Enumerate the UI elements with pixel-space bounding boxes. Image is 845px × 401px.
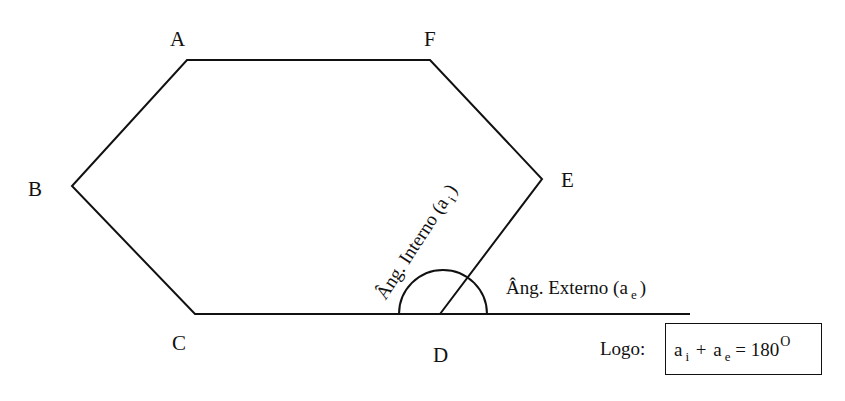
angle-arc xyxy=(399,270,487,314)
degree-symbol: O xyxy=(780,334,790,349)
formula-equals: = 180 xyxy=(735,339,779,360)
vertex-label-a: A xyxy=(170,29,185,50)
vertex-label-d: D xyxy=(433,345,448,366)
external-angle-label: Âng. Externo (ae) xyxy=(506,278,646,297)
formula-term1-subscript: i xyxy=(685,349,689,364)
external-angle-close: ) xyxy=(640,277,646,298)
formula-box: ai + ae = 180O xyxy=(665,323,822,375)
formula: ai + ae = 180O xyxy=(674,339,790,361)
vertex-label-b: B xyxy=(28,179,42,200)
formula-term1: a xyxy=(674,339,682,360)
formula-term2-subscript: e xyxy=(725,349,731,364)
conclusion-prefix: Logo: xyxy=(600,339,645,358)
hexagon-outline xyxy=(72,60,542,314)
vertex-label-e: E xyxy=(561,170,574,191)
formula-term2: a xyxy=(713,339,721,360)
formula-plus: + xyxy=(696,339,707,360)
external-angle-subscript: e xyxy=(631,287,637,302)
vertex-label-c: C xyxy=(172,333,186,354)
vertex-label-f: F xyxy=(424,29,436,50)
external-angle-text: Âng. Externo (a xyxy=(506,277,628,298)
